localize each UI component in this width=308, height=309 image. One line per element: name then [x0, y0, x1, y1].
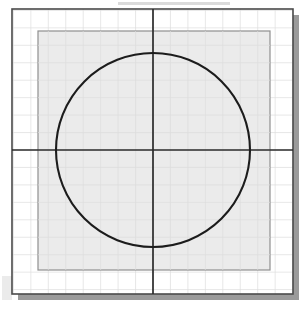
- figure-canvas: [0, 0, 308, 309]
- scan-smudge-left: [2, 276, 12, 300]
- geometry-figure-svg: [0, 0, 308, 309]
- scan-smudge-top: [118, 2, 230, 5]
